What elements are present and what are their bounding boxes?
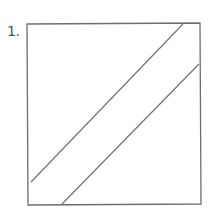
square-outline [27, 23, 201, 205]
square-diagram [0, 0, 215, 212]
diagonal-line-lower [62, 64, 199, 204]
